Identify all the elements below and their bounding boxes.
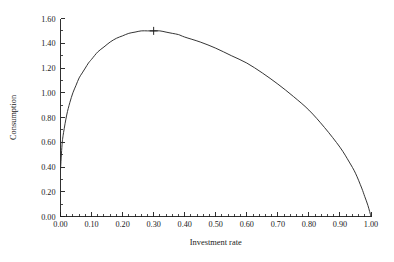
y-tick-label: 0.40 bbox=[41, 163, 55, 172]
chart-figure: 0.000.100.200.300.400.500.600.700.800.90… bbox=[0, 0, 394, 262]
y-axis-title: Consumption bbox=[9, 94, 18, 140]
y-tick-label: 1.20 bbox=[41, 64, 55, 73]
y-tick-label: 0.60 bbox=[41, 138, 55, 147]
x-tick-label: 0.60 bbox=[240, 220, 254, 229]
x-tick-label: 0.90 bbox=[333, 220, 347, 229]
x-tick-label: 0.40 bbox=[178, 220, 192, 229]
x-tick-label: 0.50 bbox=[209, 220, 223, 229]
y-axis-tick-labels: 0.000.200.400.600.801.001.201.401.60 bbox=[41, 15, 55, 222]
x-tick-label: 0.80 bbox=[302, 220, 316, 229]
x-tick-label: 0.10 bbox=[84, 220, 98, 229]
y-tick-label: 1.40 bbox=[41, 39, 55, 48]
x-axis-title: Investment rate bbox=[190, 238, 242, 247]
x-tick-label: 0.70 bbox=[271, 220, 285, 229]
y-tick-label: 1.60 bbox=[41, 15, 55, 24]
x-tick-label: 0.30 bbox=[146, 220, 160, 229]
y-tick-label: 0.00 bbox=[41, 213, 55, 222]
y-tick-label: 0.20 bbox=[41, 188, 55, 197]
x-tick-label: 0.20 bbox=[115, 220, 129, 229]
x-tick-label: 1.00 bbox=[364, 220, 378, 229]
y-tick-label: 1.00 bbox=[41, 89, 55, 98]
consumption-vs-investment-rate-chart: 0.000.100.200.300.400.500.600.700.800.90… bbox=[0, 0, 394, 262]
y-tick-label: 0.80 bbox=[41, 114, 55, 123]
